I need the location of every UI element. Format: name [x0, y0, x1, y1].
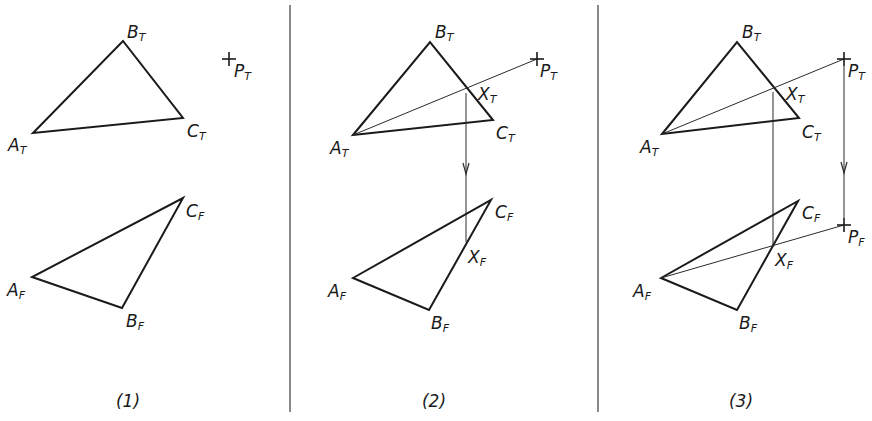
label-c-front: CF — [802, 203, 821, 225]
label-b-front: BF — [126, 311, 145, 333]
label-p-top: PT — [540, 61, 558, 83]
label-b-front: BF — [739, 313, 758, 335]
top-view-triangle — [353, 42, 493, 135]
line-a-to-p-front — [661, 225, 844, 278]
front-view-triangle — [32, 198, 183, 308]
label-c-top: CT — [496, 123, 516, 145]
descriptive-geometry-figure: BT AT CT PT CF AF BF (1) BT AT CT PT XT … — [0, 0, 872, 421]
panel-2-caption: (2) — [422, 391, 446, 411]
label-a-top: AT — [329, 138, 350, 160]
label-p-top: PT — [848, 61, 866, 83]
label-a-top: AT — [639, 137, 660, 159]
label-c-top: CT — [802, 122, 822, 144]
panel-1: BT AT CT PT CF AF BF (1) — [6, 22, 252, 411]
label-a-front: AF — [6, 280, 26, 302]
label-a-top: AT — [7, 135, 28, 157]
panel-3-caption: (3) — [729, 391, 753, 411]
label-b-top: BT — [435, 22, 455, 44]
label-c-top: CT — [187, 121, 207, 143]
label-x-top: XT — [477, 84, 498, 106]
label-x-top: XT — [785, 84, 806, 106]
line-a-to-p-top — [353, 59, 537, 135]
label-x-front: XF — [467, 247, 487, 269]
panel-2: BT AT CT PT XT CF XF AF BF (2) — [327, 22, 558, 411]
top-view-triangle — [662, 42, 799, 134]
label-c-front: CF — [495, 202, 514, 224]
label-b-top: BT — [127, 22, 147, 44]
label-a-front: AF — [327, 281, 347, 303]
label-c-front: CF — [186, 201, 205, 223]
panel-1-caption: (1) — [116, 391, 140, 411]
label-p-top: PT — [234, 61, 252, 83]
panel-3: BT AT CT PT XT CF PF XF AF BF (3) — [632, 22, 866, 411]
label-b-top: BT — [742, 22, 762, 44]
label-a-front: AF — [632, 281, 652, 303]
top-view-triangle — [33, 41, 183, 133]
label-x-front: XF — [774, 250, 794, 272]
label-b-front: BF — [431, 313, 450, 335]
label-p-front: PF — [848, 227, 865, 249]
